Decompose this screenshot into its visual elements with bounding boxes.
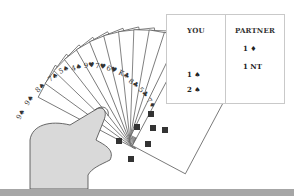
svg-text:9♠: 9♠: [15, 108, 27, 121]
partner-header: PARTNER: [226, 26, 284, 35]
you-bid-2: 2 ♠: [187, 85, 201, 94]
svg-text:7♥: 7♥: [95, 62, 106, 71]
partner-bid-1: 1 ♦: [243, 44, 257, 53]
you-header: YOU: [167, 26, 225, 35]
you-bid-1: 1 ♠: [187, 70, 201, 79]
bottom-bar: [0, 189, 294, 196]
bidding-table: YOU 1 ♠ 2 ♠ PARTNER 1 ♦ 1 NT: [166, 14, 285, 104]
partner-bid-2: 1 NT: [243, 62, 262, 71]
you-column: YOU 1 ♠ 2 ♠: [167, 15, 225, 103]
svg-text:9♠: 9♠: [23, 94, 36, 107]
svg-text:9♥: 9♥: [83, 61, 94, 70]
partner-column: PARTNER 1 ♦ 1 NT: [225, 15, 284, 103]
